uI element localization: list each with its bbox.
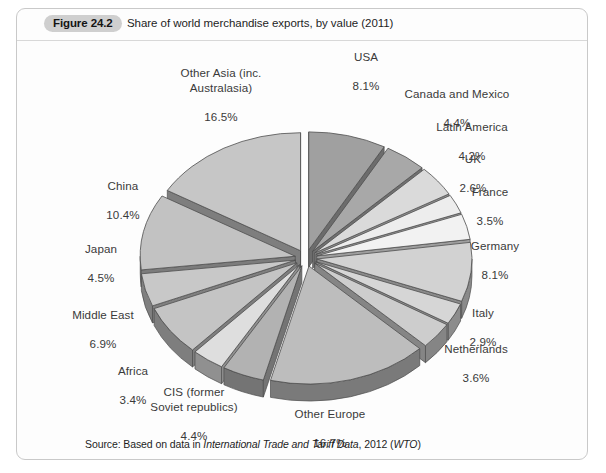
slice-label-china-name: China [108,179,139,192]
slice-label-usa-value: 8.1% [353,79,380,92]
slice-label-china: China 10.4% [87,164,159,223]
source-org: WTO [393,438,417,450]
slice-label-middle-east-value: 6.9% [90,337,117,350]
slice-label-china-value: 10.4% [106,208,139,221]
slice-label-germany-name: Germany [471,239,519,252]
slice-label-italy-name: Italy [472,306,494,319]
source-publication: International Trade and Tariff Data [203,438,358,450]
figure-title: Share of world merchandise exports, by v… [127,17,393,29]
slice-label-usa: USA 8.1% [331,35,401,94]
source-suffix: ) [417,438,420,450]
slice-label-latin-america-name: Latin America [436,120,508,133]
slice-label-netherlands-value: 3.6% [463,371,490,384]
slice-label-japan: Japan 4.5% [67,227,135,286]
slice-label-usa-name: USA [354,50,378,63]
slice-label-canada-mexico-name: Canada and Mexico [405,87,510,100]
slice-label-other-asia-name: Other Asia (inc. Australasia) [181,66,262,94]
source-prefix: Source: Based on data in [85,438,203,450]
source-note: Source: Based on data in International T… [85,438,421,450]
slice-label-uk-name: UK [465,152,481,165]
slice-label-netherlands-name: Netherlands [444,342,508,355]
figure-container: Figure 24.2 Share of world merchandise e… [16,8,588,460]
slice-label-other-asia-value: 16.5% [204,110,237,123]
slice-label-japan-value: 4.5% [88,271,115,284]
slice-label-middle-east-name: Middle East [72,308,134,321]
slice-label-africa-value: 3.4% [120,393,147,406]
slice-label-africa-name: Africa [118,364,148,377]
slice-label-france: France 3.5% [455,170,525,229]
slice-label-france-name: France [472,185,509,198]
slice-label-africa: Africa 3.4% [101,349,165,408]
slice-label-germany: Germany 8.1% [453,224,537,283]
slice-label-other-europe-name: Other Europe [295,407,366,420]
slice-label-germany-value: 8.1% [482,268,509,281]
slice-label-netherlands: Netherlands 3.6% [424,327,528,386]
figure-screenshot: Figure 24.2 Share of world merchandise e… [0,0,606,473]
source-middle: , 2012 ( [359,438,394,450]
slice-label-middle-east: Middle East 6.9% [53,293,153,352]
figure-number-badge: Figure 24.2 [44,15,122,32]
slice-label-other-asia: Other Asia (inc. Australasia) 16.5% [159,51,283,125]
figure-header: Figure 24.2 Share of world merchandise e… [17,9,587,41]
slice-label-japan-name: Japan [85,242,117,255]
